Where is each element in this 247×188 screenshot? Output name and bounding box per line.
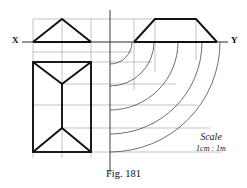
plan-view-right-trapezoid <box>134 19 217 42</box>
axis-label-y: Y <box>231 36 238 45</box>
scale-title: Scale <box>178 131 244 143</box>
scale-note: Scale 1cm : 1m <box>178 131 244 153</box>
hip-line-bottom-right <box>62 128 91 152</box>
figure-caption: Fig. 181 <box>0 168 247 179</box>
arc-inner-1 <box>110 42 132 64</box>
axis-label-x: X <box>12 36 19 45</box>
arc-4 <box>110 42 202 134</box>
figure-container: X Y Scale 1cm : 1m Fig. 181 <box>0 0 247 188</box>
hip-line-bottom-left <box>33 128 62 152</box>
hip-roof-right <box>134 19 217 42</box>
hip-line-top-right <box>62 62 91 84</box>
engineering-drawing-svg <box>0 0 247 188</box>
hip-line-top-left <box>33 62 62 84</box>
arc-2 <box>110 42 154 86</box>
scale-ratio: 1cm : 1m <box>178 144 244 153</box>
